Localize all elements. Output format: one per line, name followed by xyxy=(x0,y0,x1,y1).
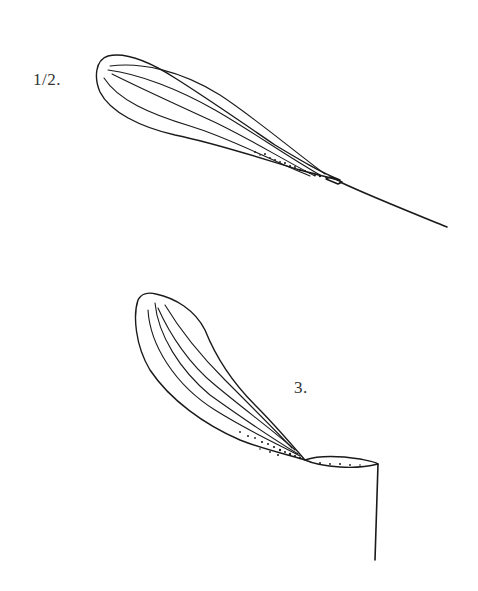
botanical-illustration xyxy=(0,0,478,591)
figure-3-seed xyxy=(136,293,378,560)
figure-1-2-seed xyxy=(96,55,447,227)
